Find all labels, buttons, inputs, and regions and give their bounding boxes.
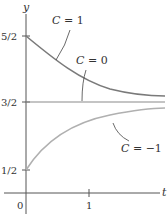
curve-c-neg-one xyxy=(26,108,165,170)
y-tick-label-1-2: 1/2 xyxy=(1,165,17,176)
label-c-one: C = 1 xyxy=(52,14,84,27)
t-tick-label-1: 1 xyxy=(86,200,92,211)
t-axis-label: t xyxy=(162,186,167,199)
solution-curves-chart: y t 5/2 3/2 1/2 0 1 C = 1 C = 0 C = −1 xyxy=(0,0,168,214)
origin-label: 0 xyxy=(17,200,23,211)
label-c-one-value: = 1 xyxy=(60,14,83,27)
y-tick-label-3-2: 3/2 xyxy=(1,97,17,108)
y-axis-label: y xyxy=(22,1,30,14)
label-c-zero: C = 0 xyxy=(76,54,108,67)
label-c-neg-one-value: = −1 xyxy=(129,142,161,155)
leader-c-neg-one xyxy=(113,123,129,141)
leader-c-zero xyxy=(82,70,86,101)
label-c-zero-value: = 0 xyxy=(84,54,107,67)
leader-c-one xyxy=(56,30,70,60)
y-tick-label-5-2: 5/2 xyxy=(1,31,17,42)
label-c-neg-one: C = −1 xyxy=(121,142,162,155)
